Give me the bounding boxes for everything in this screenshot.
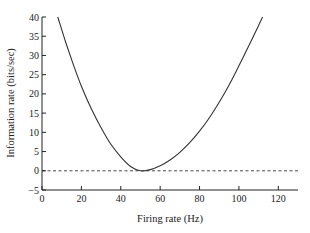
y-tick-label: 40 bbox=[29, 12, 39, 23]
y-tick-label: 25 bbox=[29, 69, 39, 80]
y-tick-label: 0 bbox=[34, 165, 39, 176]
y-tick-label: 35 bbox=[29, 31, 39, 42]
x-tick-label: 40 bbox=[116, 193, 126, 204]
x-tick-label: 20 bbox=[76, 193, 86, 204]
x-tick-label: 80 bbox=[195, 193, 205, 204]
y-tick-label: −5 bbox=[28, 185, 39, 196]
y-tick-label: 5 bbox=[34, 146, 39, 157]
axes: −50510152025303540020406080100120 bbox=[28, 12, 298, 205]
x-tick-label: 100 bbox=[231, 193, 246, 204]
y-axis-title: Information rate (bits/sec) bbox=[5, 48, 17, 158]
y-tick-label: 15 bbox=[29, 108, 39, 119]
y-tick-label: 20 bbox=[29, 88, 39, 99]
y-tick-label: 10 bbox=[29, 127, 39, 138]
information-rate-chart: −50510152025303540020406080100120 Firing… bbox=[0, 0, 310, 233]
plot-area bbox=[42, 17, 298, 171]
information-rate-curve bbox=[58, 17, 263, 171]
x-tick-label: 120 bbox=[271, 193, 286, 204]
x-axis-title: Firing rate (Hz) bbox=[137, 213, 203, 225]
x-tick-label: 60 bbox=[155, 193, 165, 204]
y-tick-label: 30 bbox=[29, 50, 39, 61]
x-tick-label: 0 bbox=[40, 193, 45, 204]
